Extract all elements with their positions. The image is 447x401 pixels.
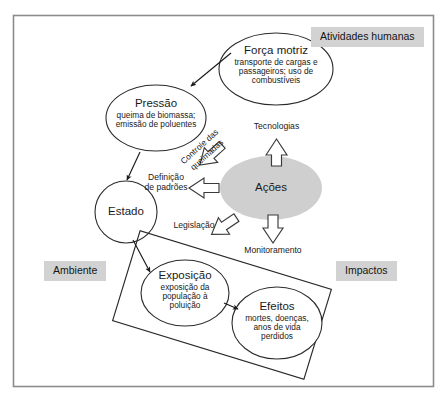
flow-label-legislacao: Legislação (166, 221, 222, 231)
flow-label-tecnologias-text: Tecnologias (254, 121, 299, 131)
node-pressao-title: Pressão (100, 97, 212, 110)
node-estado-title: Estado (86, 205, 166, 218)
flow-label-legislacao-text: Legislação (173, 220, 214, 230)
flow-label-monitoramento: Monitoramento (232, 246, 314, 256)
zone-label-impactos: Impactos (336, 261, 397, 281)
flow-label-definicao-padroes-line-2: de padrões (144, 182, 187, 192)
flow-label-monitoramento-text: Monitoramento (244, 245, 301, 255)
node-exposicao-title: Exposição (135, 269, 235, 282)
diagram-canvas: Atividades humanas Ambiente Impactos For… (0, 0, 447, 401)
arrow-estado-to-exposicao (133, 240, 150, 272)
node-forca-motriz-detail-line-3: combustíveis (211, 76, 341, 85)
node-acoes-title: Ações (231, 181, 311, 194)
node-efeitos: Efeitos mortes, doenças, anos de vida pe… (227, 300, 327, 342)
node-forca-motriz: Força motriz transporte de cargas e pass… (211, 44, 341, 86)
flow-label-tecnologias: Tecnologias (243, 122, 310, 132)
node-estado: Estado (86, 205, 166, 219)
node-forca-motriz-title: Força motriz (211, 44, 341, 57)
node-exposicao: Exposição exposição da população à polui… (135, 269, 235, 311)
node-efeitos-title: Efeitos (227, 300, 327, 313)
flow-label-definicao-padroes-line-1: Definição (148, 172, 184, 182)
zone-label-ambiente: Ambiente (44, 261, 106, 281)
node-pressao-detail-line-2: emissão de poluentes (100, 120, 212, 129)
block-arrow-definicao-padroes (189, 178, 219, 198)
node-pressao: Pressão queima de biomassa; emissão de p… (100, 97, 212, 129)
arrow-pressao-to-estado (127, 152, 140, 180)
node-exposicao-detail-line-3: poluição (135, 301, 235, 310)
flow-label-definicao-padroes: Definição de padrões (140, 173, 192, 193)
node-acoes: Ações (231, 181, 311, 195)
node-efeitos-detail-line-3: perdidos (227, 332, 327, 341)
